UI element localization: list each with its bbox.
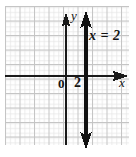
graph-canvas (0, 0, 136, 157)
coordinate-plane-figure: y x x = 2 0 2 (0, 0, 136, 157)
line-equation-label: x = 2 (89, 29, 120, 43)
y-axis-label: y (71, 9, 77, 22)
x-axis-label: x (119, 76, 125, 89)
x-tick-label-2: 2 (74, 76, 81, 90)
origin-label: 0 (58, 77, 65, 90)
